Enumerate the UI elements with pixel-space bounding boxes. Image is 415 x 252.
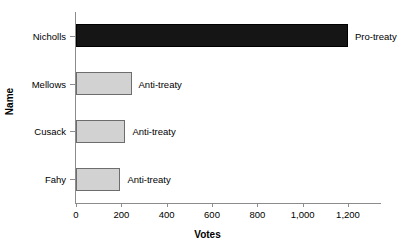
x-axis-tick [212,203,213,207]
x-axis-tick-label: 600 [204,209,220,220]
x-axis-tick-label: 800 [249,209,265,220]
y-axis-tick [70,84,75,85]
bar-annotation-cusack: Anti-treaty [132,126,175,137]
x-axis-tick [76,203,77,207]
y-axis-tick-label: Mellows [0,78,66,89]
x-axis-tick [257,203,258,207]
x-axis-tick-label: 1,200 [336,209,360,220]
y-axis-tick-label: Nicholls [0,30,66,41]
x-axis-tick [303,203,304,207]
bar-nicholls [76,24,348,47]
bar-annotation-fahy: Anti-treaty [127,174,170,185]
bar-fahy [76,168,120,191]
y-axis-tick [70,131,75,132]
y-axis-tick [70,36,75,37]
x-axis-tick [167,203,168,207]
y-axis-tick [70,179,75,180]
x-axis-tick [348,203,349,207]
x-axis-title: Votes [0,229,415,240]
bar-annotation-nicholls: Pro-treaty [355,30,397,41]
y-axis-tick-label: Cusack [0,126,66,137]
bar-annotation-mellows: Anti-treaty [139,78,182,89]
y-axis-tick-label: Fahy [0,174,66,185]
x-axis-tick-label: 0 [73,209,78,220]
x-axis-tick-label: 1,000 [291,209,315,220]
x-axis-tick-label: 400 [159,209,175,220]
bar-mellows [76,72,132,95]
x-axis-tick [121,203,122,207]
x-axis-tick-label: 200 [113,209,129,220]
bar-cusack [76,120,125,143]
bar-chart: Name NichollsMellowsCusackFahy Pro-treat… [0,0,415,252]
